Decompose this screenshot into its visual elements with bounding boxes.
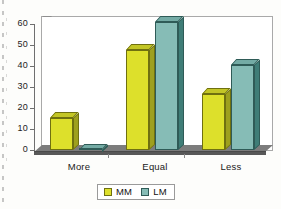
bar-lm-more[interactable] — [79, 144, 102, 150]
bar-lm-less[interactable] — [231, 59, 254, 150]
legend-item-mm[interactable]: MM — [104, 187, 132, 197]
mm-swatch-icon — [104, 188, 112, 196]
bar-lm-equal[interactable] — [155, 16, 178, 150]
bar-front-face — [202, 94, 225, 150]
lm-swatch-icon — [141, 188, 149, 196]
bar-side-face — [254, 60, 260, 150]
legend-item-lm[interactable]: LM — [141, 187, 167, 197]
bar-mm-less[interactable] — [202, 88, 225, 150]
x-axis-label-less: Less — [203, 161, 259, 172]
bar-front-face — [50, 118, 73, 150]
bar-front-face — [231, 65, 254, 150]
bar-mm-more[interactable] — [50, 112, 73, 150]
bar-side-face — [178, 17, 184, 150]
bar-series-group — [0, 0, 281, 209]
bar-front-face — [79, 148, 102, 150]
x-axis-label-equal: Equal — [127, 161, 183, 172]
bar-front-face — [126, 50, 149, 150]
chart-legend: MM LM — [97, 184, 175, 200]
bar-front-face — [155, 22, 178, 150]
legend-label-lm: LM — [153, 187, 167, 197]
bar-mm-equal[interactable] — [126, 44, 149, 150]
chart-screenshot: 60 50 40 30 20 10 0 — [0, 0, 281, 209]
legend-label-mm: MM — [116, 187, 132, 197]
x-axis-label-more: More — [51, 161, 107, 172]
